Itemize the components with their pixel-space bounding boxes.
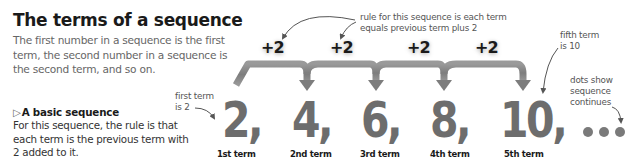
dot-icon [615, 127, 625, 137]
increment-arrow-4 [444, 64, 523, 82]
dots-pointer-arrow [612, 107, 621, 122]
increment-label-3: +2 [407, 38, 430, 57]
term-5-label: 5th term [504, 149, 543, 159]
increment-arrow-3 [376, 64, 444, 82]
rule-annotation: rule for this sequence is each term equa… [360, 12, 507, 34]
arrowheads [299, 80, 531, 91]
term-1-label: 1st term [217, 149, 255, 159]
fifth-term-annotation: fifth term is 10 [560, 30, 599, 52]
term-2-label: 2nd term [290, 149, 332, 159]
term-3-label: 3rd term [360, 149, 400, 159]
increment-label-2: +2 [330, 38, 353, 57]
term-4-label: 4th term [430, 149, 469, 159]
rule-pointer-arrow-2 [341, 22, 356, 38]
term-3-value: 6, [361, 95, 400, 145]
rule-pointer-arrow-1 [283, 17, 355, 38]
term-5-value: 10, [500, 95, 565, 145]
term-1-value: 2, [222, 95, 261, 145]
dot-icon [583, 127, 593, 137]
continuation-dots [583, 127, 625, 137]
increment-arrow-1 [236, 64, 307, 85]
first-term-annotation: first term is 2 [175, 91, 214, 113]
dots-annotation: dots show sequence continues [570, 75, 613, 108]
increment-arrow-2 [307, 64, 376, 82]
dot-icon [599, 127, 609, 137]
increment-label-4: +2 [475, 38, 498, 57]
term-2-value: 4, [292, 95, 331, 145]
term-4-value: 8, [430, 95, 469, 145]
fifth-term-pointer-arrow [543, 48, 558, 92]
increment-label-1: +2 [261, 38, 284, 57]
